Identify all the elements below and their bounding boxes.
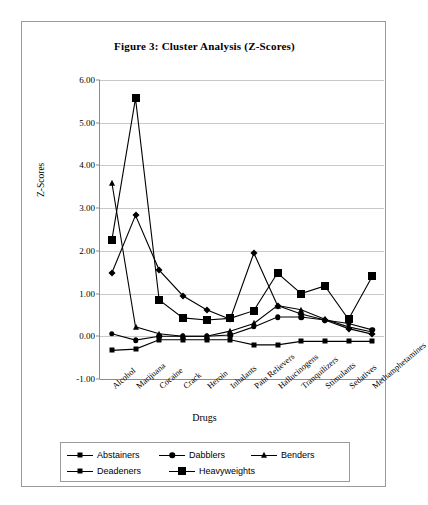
marker-square-large-icon [321, 282, 329, 290]
marker-triangle-icon [261, 452, 267, 458]
marker-triangle-icon [133, 324, 139, 330]
legend: AbstainersDabblersBenders DeadenersHeavy… [60, 442, 350, 482]
legend-item-label: Heavyweights [199, 466, 255, 476]
legend-item-abstainers[interactable]: Abstainers [67, 449, 145, 461]
legend-item-dabblers[interactable]: Dabblers [159, 449, 237, 461]
series-layer [100, 80, 384, 379]
legend-key [251, 449, 277, 461]
y-tick-label: 0.00 [79, 331, 95, 341]
marker-square-small-icon [251, 342, 256, 347]
legend-key [159, 449, 185, 461]
legend-row: DeadenersHeavyweights [67, 463, 343, 479]
marker-square-large-icon [345, 315, 353, 323]
legend-item-label: Dabblers [189, 450, 225, 460]
marker-diamond-icon [78, 469, 83, 474]
marker-circle-icon [133, 337, 139, 343]
marker-square-small-icon [346, 339, 351, 344]
series-line [112, 183, 372, 337]
legend-item-benders[interactable]: Benders [251, 449, 329, 461]
marker-square-large-icon [108, 236, 116, 244]
marker-square-large-icon [203, 316, 211, 324]
legend-item-deadeners[interactable]: Deadeners [67, 465, 155, 477]
marker-triangle-icon [109, 179, 115, 185]
y-axis-label: Z-Scores [36, 163, 46, 197]
plot-area: 6.005.004.003.002.001.000.00-1.00 Alcoho… [99, 80, 383, 379]
marker-triangle-icon [251, 320, 257, 326]
y-tick-label: 1.00 [79, 289, 95, 299]
marker-triangle-icon [204, 333, 210, 339]
marker-square-large-icon [250, 307, 258, 315]
legend-item-label: Abstainers [97, 450, 140, 460]
series-line [112, 340, 372, 351]
marker-square-small-icon [133, 347, 138, 352]
marker-square-large-icon [155, 296, 163, 304]
y-tick-label: 5.00 [79, 118, 95, 128]
marker-square-small-icon [299, 339, 304, 344]
marker-circle-icon [109, 331, 115, 337]
legend-item-label: Benders [281, 450, 315, 460]
marker-square-small-icon [78, 453, 83, 458]
marker-square-large-icon [179, 314, 187, 322]
y-tick-label: 3.00 [79, 203, 95, 213]
marker-triangle-icon [156, 330, 162, 336]
marker-circle-icon [275, 314, 281, 320]
marker-square-small-icon [322, 339, 327, 344]
legend-key [67, 465, 93, 477]
series-line [112, 317, 372, 340]
legend-key [169, 465, 195, 477]
marker-square-large-icon [132, 94, 140, 102]
legend-key [67, 449, 93, 461]
legend-item-heavyweights[interactable]: Heavyweights [169, 465, 257, 477]
marker-triangle-icon [180, 333, 186, 339]
marker-square-small-icon [228, 337, 233, 342]
figure-frame: Figure 3: Cluster Analysis (Z-Scores) Z-… [21, 21, 386, 487]
y-tick-label: 4.00 [79, 160, 95, 170]
y-tick-label: -1.00 [76, 374, 95, 384]
marker-triangle-icon [227, 328, 233, 334]
marker-square-large-icon [226, 314, 234, 322]
marker-square-large-icon [178, 467, 186, 475]
x-axis-label: Drugs [22, 412, 387, 423]
marker-square-small-icon [109, 348, 114, 353]
marker-square-small-icon [370, 339, 375, 344]
y-tick-label: 6.00 [79, 75, 95, 85]
marker-square-small-icon [275, 342, 280, 347]
y-tick-label: 2.00 [79, 246, 95, 256]
marker-square-large-icon [274, 269, 282, 277]
marker-square-large-icon [297, 290, 305, 298]
page-title: Figure 3: Cluster Analysis (Z-Scores) [22, 40, 387, 52]
marker-square-large-icon [368, 272, 376, 280]
marker-circle-icon [169, 452, 175, 458]
legend-row: AbstainersDabblersBenders [67, 447, 343, 463]
legend-item-label: Deadeners [97, 466, 141, 476]
